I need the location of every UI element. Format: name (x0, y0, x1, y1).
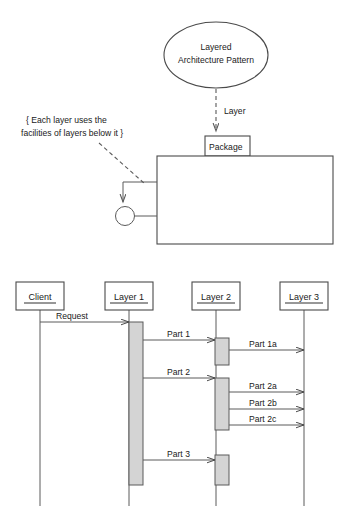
package-body (157, 156, 333, 244)
message-label-part-2a: Part 2a (249, 381, 277, 391)
self-association-incoming-line (123, 182, 157, 202)
activation-bar-layer1 (129, 322, 143, 485)
message-label-part-2c: Part 2c (249, 414, 277, 424)
message-label-part-1: Part 1 (167, 329, 190, 339)
activation-bar-layer2-part1 (215, 338, 229, 365)
message-part-3: Part 3 (143, 449, 215, 460)
pattern-label-line2: Architecture Pattern (178, 55, 254, 65)
activation-bar-layer2-part2 (215, 378, 229, 430)
layer-stereotype-label: Layer (224, 106, 246, 116)
lifeline-label-layer3: Layer 3 (289, 292, 319, 302)
uml-diagram-canvas: Layered Architecture Pattern Layer Packa… (0, 0, 346, 521)
message-part-1: Part 1 (143, 329, 215, 340)
lifeline-header-client[interactable]: Client (16, 282, 64, 310)
note-text-line2: facilities of layers below it } (21, 128, 123, 138)
self-association-loop (116, 182, 158, 226)
message-label-part-2: Part 2 (167, 367, 190, 377)
lifeline-header-layer2[interactable]: Layer 2 (192, 282, 240, 310)
lifeline-label-layer1: Layer 1 (114, 292, 144, 302)
pattern-label-line1: Layered (200, 42, 231, 52)
lifeline-header-layer1[interactable]: Layer 1 (105, 282, 153, 310)
message-part-2: Part 2 (143, 367, 215, 378)
message-label-request: Request (56, 311, 89, 321)
message-part-2b: Part 2b (229, 398, 304, 409)
message-label-part-1a: Part 1a (249, 339, 277, 349)
pattern-ellipse-node: Layered Architecture Pattern (164, 22, 268, 88)
activation-bars (129, 322, 229, 485)
note-text-line1: { Each layer uses the (26, 115, 107, 125)
lifeline-label-client: Client (28, 292, 52, 302)
lifeline-header-layer3[interactable]: Layer 3 (280, 282, 328, 310)
lifeline-label-layer2: Layer 2 (201, 292, 231, 302)
message-part-2a: Part 2a (229, 381, 304, 392)
package-tab-label: Package (209, 142, 243, 152)
message-part-2c: Part 2c (229, 414, 304, 425)
message-label-part-3: Part 3 (167, 449, 190, 459)
message-request: Request (40, 311, 129, 322)
package-shape: Package (157, 136, 333, 244)
message-part-1a: Part 1a (229, 339, 304, 350)
self-association-circle (116, 207, 135, 226)
constraint-note: { Each layer uses the facilities of laye… (21, 115, 145, 184)
stereotype-dependency-arrow: Layer (216, 89, 246, 131)
activation-bar-layer2-part3 (215, 455, 229, 485)
message-label-part-2b: Part 2b (249, 398, 277, 408)
note-connector-line (99, 143, 145, 184)
